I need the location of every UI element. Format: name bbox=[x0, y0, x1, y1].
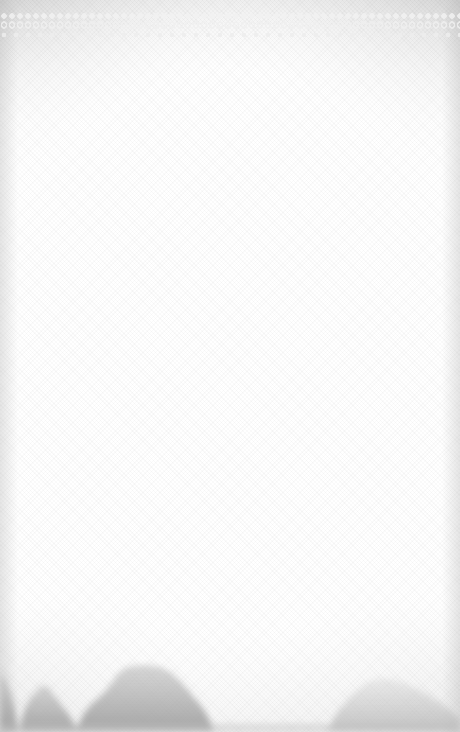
lace-border-row-bottom bbox=[0, 31, 460, 39]
edge-vignette bbox=[0, 0, 460, 732]
background-page bbox=[0, 0, 460, 732]
lace-border-row-top bbox=[0, 12, 460, 20]
lace-border-row-middle bbox=[0, 21, 460, 29]
tree-left-edge bbox=[0, 672, 18, 732]
canvas-texture bbox=[0, 0, 460, 732]
tree-large-center bbox=[76, 665, 214, 732]
tree-silhouettes bbox=[0, 642, 460, 732]
lace-border bbox=[0, 10, 460, 40]
